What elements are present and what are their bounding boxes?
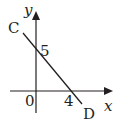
y-axis-arrow-icon bbox=[32, 11, 40, 20]
x-axis-arrow-icon bbox=[104, 87, 113, 95]
point-c-label: C bbox=[8, 19, 19, 37]
coordinate-diagram: y x 0 C D 5 4 bbox=[0, 0, 123, 124]
origin-label: 0 bbox=[25, 92, 35, 110]
point-d-label: D bbox=[83, 105, 95, 123]
x-intercept-label: 4 bbox=[64, 92, 74, 110]
y-axis-label: y bbox=[23, 1, 33, 19]
y-intercept-label: 5 bbox=[40, 42, 50, 60]
x-axis-label: x bbox=[104, 97, 113, 115]
